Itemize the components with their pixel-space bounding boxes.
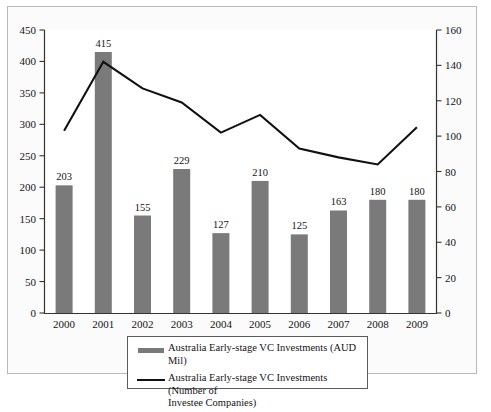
chart-container: 050100150200250300350400450 020406080100…: [0, 0, 491, 412]
legend-line-swatch-icon: [134, 374, 168, 386]
bar: [408, 200, 425, 313]
category-axis-label: 2001: [92, 318, 114, 330]
right-axis-tick-label: 0: [445, 307, 451, 319]
legend-entry-bar: Australia Early-stage VC Investments (AU…: [128, 342, 367, 367]
left-axis-tick-label: 300: [20, 118, 37, 130]
left-axis-tick-label: 0: [31, 307, 37, 319]
legend-entry-line: Australia Early-stage VC Investments (Nu…: [128, 372, 367, 410]
right-axis-ticks: [437, 30, 442, 313]
left-axis-tick-label: 200: [20, 181, 37, 193]
left-axis: 050100150200250300350400450: [20, 24, 45, 319]
chart-legend: Australia Early-stage VC Investments (AU…: [127, 336, 368, 389]
bar-value-label: 210: [252, 167, 268, 178]
bar-value-label: 229: [174, 155, 190, 166]
left-axis-tick-label: 350: [20, 87, 37, 99]
legend-entry-bar-label: Australia Early-stage VC Investments (AU…: [168, 342, 361, 367]
left-axis-tick-label: 100: [20, 244, 37, 256]
category-axis-label: 2002: [132, 318, 154, 330]
right-axis-tick-label: 120: [445, 95, 462, 107]
right-axis: 020406080100120140160: [437, 24, 463, 319]
left-axis-tick-label: 50: [25, 276, 37, 288]
right-axis-tick-label: 160: [445, 24, 462, 36]
bar: [212, 233, 229, 313]
bar-value-label: 180: [409, 186, 425, 197]
line-series: [64, 62, 417, 165]
right-axis-tick-label: 60: [445, 201, 457, 213]
bar-series: [56, 52, 426, 313]
left-axis-tick-labels: 050100150200250300350400450: [20, 24, 37, 319]
left-axis-ticks: [40, 30, 45, 313]
bar-value-label: 203: [56, 171, 72, 182]
left-axis-tick-label: 250: [20, 150, 37, 162]
bar: [56, 185, 73, 313]
category-axis-label: 2005: [249, 318, 272, 330]
category-axis-label: 2006: [288, 318, 311, 330]
right-axis-tick-labels: 020406080100120140160: [445, 24, 462, 319]
left-axis-tick-label: 400: [20, 55, 37, 67]
legend-entry-line-label: Australia Early-stage VC Investments (Nu…: [168, 372, 361, 410]
bar-value-label: 163: [331, 196, 347, 207]
bar: [252, 181, 269, 313]
left-axis-tick-label: 150: [20, 213, 37, 225]
category-axis-label: 2007: [328, 318, 351, 330]
category-axis-label: 2008: [367, 318, 390, 330]
right-axis-tick-label: 100: [445, 130, 462, 142]
left-axis-tick-label: 450: [20, 24, 37, 36]
category-axis-label: 2000: [53, 318, 76, 330]
bar-value-label: 125: [291, 220, 307, 231]
line-path: [64, 62, 417, 165]
bar: [369, 200, 386, 313]
bar: [134, 216, 151, 313]
right-axis-tick-label: 40: [445, 236, 457, 248]
bar: [291, 234, 308, 313]
right-axis-tick-label: 80: [445, 166, 457, 178]
legend-bar-swatch-icon: [134, 344, 168, 356]
category-axis-label: 2004: [210, 318, 233, 330]
right-axis-tick-label: 140: [445, 59, 462, 71]
bar: [330, 210, 347, 313]
bar: [95, 52, 112, 313]
bar-value-label: 155: [135, 202, 151, 213]
category-axis-label: 2009: [406, 318, 429, 330]
category-axis: 2000200120022003200420052006200720082009: [44, 314, 437, 331]
bar-value-label: 415: [95, 38, 111, 49]
bar-value-label: 127: [213, 219, 229, 230]
category-axis-labels: 2000200120022003200420052006200720082009: [53, 318, 428, 330]
bar-value-label: 180: [370, 186, 386, 197]
category-axis-label: 2003: [171, 318, 194, 330]
bar: [173, 169, 190, 313]
right-axis-tick-label: 20: [445, 272, 457, 284]
